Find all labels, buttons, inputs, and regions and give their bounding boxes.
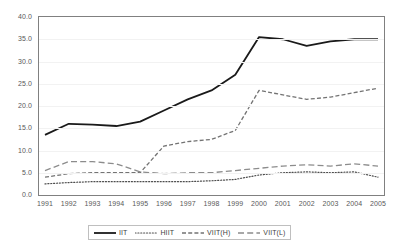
line-chart-figure: 40.035.030.025.020.015.010.05.00.0 19911…	[0, 0, 406, 246]
plot-area	[38, 16, 385, 196]
y-tick-label: 15.0	[18, 124, 32, 132]
legend-swatch-icon	[135, 229, 157, 237]
legend-swatch-icon	[238, 229, 260, 237]
gridline	[39, 173, 384, 174]
legend-entry[interactable]: HIIT	[135, 229, 174, 237]
y-tick-label: 35.0	[18, 35, 32, 43]
x-tick-label: 1991	[37, 199, 53, 208]
x-tick-label: 2000	[251, 199, 267, 208]
legend-entry[interactable]: VIIT(L)	[238, 229, 285, 237]
legend-label: HIIT	[160, 229, 174, 237]
y-tick-label: 5.0	[22, 169, 32, 177]
y-tick-label: 25.0	[18, 80, 32, 88]
y-tick-label: 20.0	[18, 102, 32, 110]
y-tick-label: 10.0	[18, 147, 32, 155]
gridline	[39, 62, 384, 63]
gridline	[39, 128, 384, 129]
x-tick-label: 2002	[299, 199, 315, 208]
x-tick-label: 1999	[227, 199, 243, 208]
x-tick-label: 2003	[322, 199, 338, 208]
x-tick-label: 1992	[61, 199, 77, 208]
x-tick-label: 1996	[156, 199, 172, 208]
y-tick-label: 30.0	[18, 58, 32, 66]
x-axis: 1991199219931994199519961997199819992000…	[38, 199, 385, 213]
gridline	[39, 106, 384, 107]
x-tick-label: 1997	[180, 199, 196, 208]
chart-legend: IITHIITVIIT(H)VIIT(L)	[88, 225, 291, 240]
x-tick-label: 1994	[108, 199, 124, 208]
y-tick-label: 0.0	[22, 191, 32, 199]
legend-label: VIIT(H)	[207, 229, 230, 237]
legend-swatch-icon	[182, 229, 204, 237]
x-tick-label: 1998	[204, 199, 220, 208]
x-tick-label: 2005	[370, 199, 386, 208]
x-tick-label: 1993	[85, 199, 101, 208]
y-axis: 40.035.030.025.020.015.010.05.00.0	[0, 0, 36, 246]
y-tick-label: 40.0	[18, 13, 32, 21]
series-line-viith	[45, 88, 378, 177]
series-line-iit	[45, 37, 378, 135]
legend-label: IIT	[119, 229, 127, 237]
legend-entry[interactable]: IIT	[94, 229, 127, 237]
legend-label: VIIT(L)	[263, 229, 285, 237]
x-tick-label: 1995	[132, 199, 148, 208]
gridline	[39, 39, 384, 40]
x-tick-label: 2004	[346, 199, 362, 208]
gridline	[39, 84, 384, 85]
gridline	[39, 151, 384, 152]
legend-swatch-icon	[94, 229, 116, 237]
legend-entry[interactable]: VIIT(H)	[182, 229, 230, 237]
x-tick-label: 2001	[275, 199, 291, 208]
